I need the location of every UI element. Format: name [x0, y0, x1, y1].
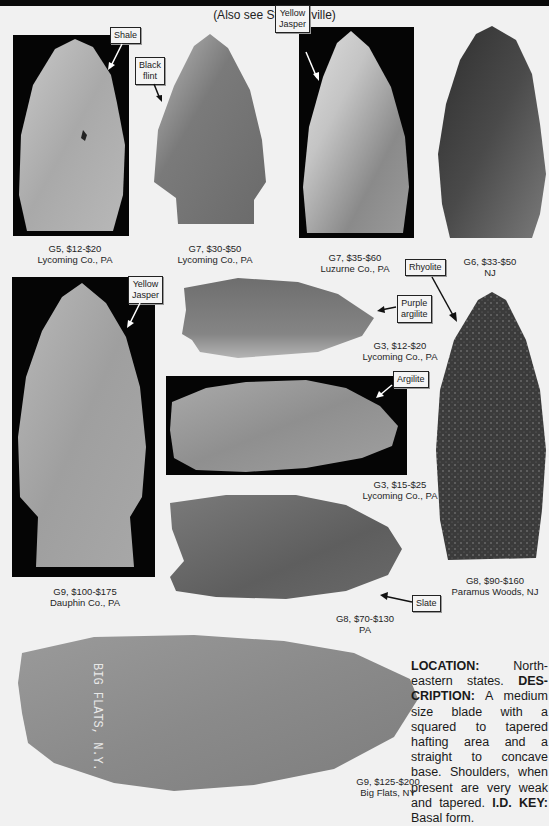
caption-point-9: G8, $70-$130PA — [320, 613, 410, 635]
caption-point-2: G7, $30-$50Lycoming Co., PA — [165, 243, 265, 265]
caption-point-1: G5, $12-$20Lycoming Co., PA — [30, 243, 120, 265]
type-description: LOCATION: North-eastern states. DES-CRIP… — [411, 659, 548, 826]
location-label: LOCATION: — [411, 659, 480, 673]
caption-point-4: G6, $33-$50NJ — [450, 256, 530, 278]
point-photo-2 — [150, 30, 268, 232]
material-label-black-flint: Blackflint — [135, 57, 165, 85]
artifact-image — [430, 290, 549, 565]
caption-point-8: G8, $90-$160Paramus Woods, NJ — [445, 575, 545, 597]
arrow-icon — [304, 50, 324, 84]
arrow-icon — [151, 83, 165, 103]
caption-point-5: G9, $100-$175Dauphin Co., PA — [35, 586, 135, 608]
artifact-image — [166, 493, 406, 601]
artifact-inscription: BIG FLATS, N.Y. — [90, 663, 104, 771]
idkey-text: Basal form. — [411, 811, 474, 825]
material-label-yellow-jasper-2: YellowJasper — [128, 276, 163, 304]
material-label-purple-argilite: Purpleargilite — [397, 295, 432, 323]
arrow-icon — [106, 42, 126, 72]
point-photo-10: BIG FLATS, N.Y. — [14, 633, 420, 797]
caption-point-3: G7, $35-$60Luzurne Co., PA — [305, 252, 405, 274]
point-photo-7 — [166, 376, 407, 475]
artifact-image — [436, 24, 548, 242]
idkey-label: I.D. KEY: — [492, 796, 548, 810]
point-photo-6 — [178, 274, 378, 364]
material-label-argilite: Argilite — [393, 371, 429, 388]
material-label-rhyolite: Rhyolite — [405, 259, 446, 276]
artifact-image: BIG FLATS, N.Y. — [14, 633, 420, 793]
arrow-icon — [124, 301, 144, 331]
arrow-icon — [378, 592, 414, 606]
material-label-slate: Slate — [412, 595, 441, 612]
arrow-icon — [430, 275, 460, 325]
arrow-icon — [374, 384, 394, 400]
point-photo-9 — [166, 493, 406, 605]
artifact-image — [166, 376, 407, 475]
description-text: A medium size blade with a squared to ta… — [411, 689, 548, 809]
point-photo-8 — [430, 290, 549, 569]
material-label-yellow-jasper-1: YellowJasper — [275, 5, 310, 33]
point-photo-4 — [436, 24, 548, 246]
artifact-image — [178, 274, 378, 360]
artifact-image — [150, 30, 268, 228]
arrow-icon — [376, 303, 398, 315]
